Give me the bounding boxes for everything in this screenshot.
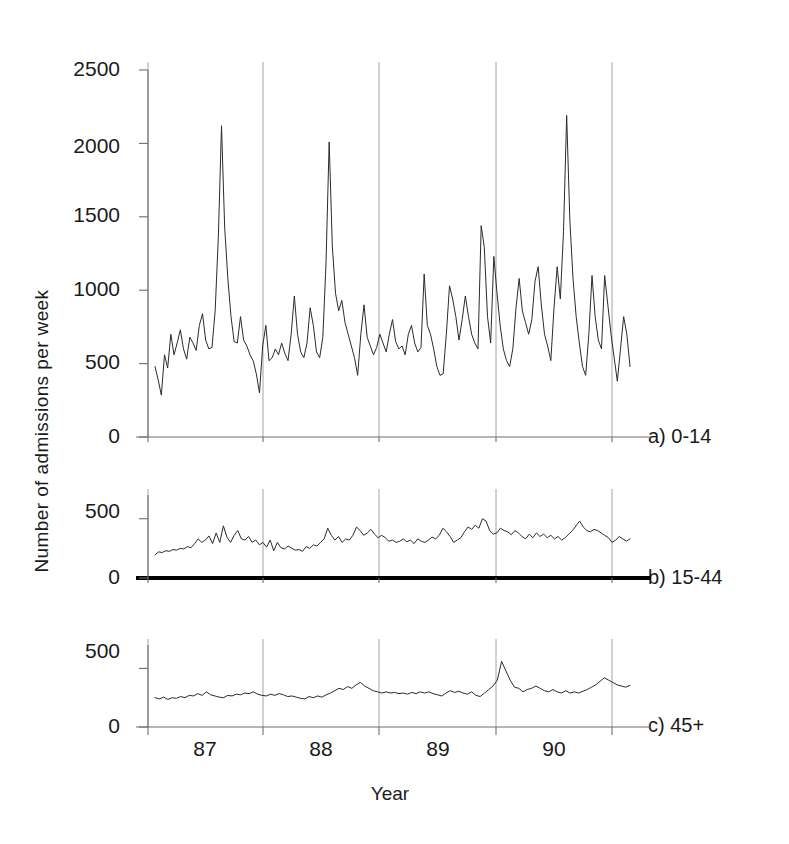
- panel-b: [136, 489, 651, 583]
- series-line-a: [155, 116, 630, 396]
- plot-canvas: [0, 0, 789, 844]
- series-line-c: [155, 661, 630, 699]
- series-line-b: [155, 519, 630, 555]
- panel-a: [136, 62, 651, 442]
- panel-c: [136, 639, 651, 735]
- figure-admissions-by-age: Number of admissions per week 2500 2000 …: [0, 0, 789, 844]
